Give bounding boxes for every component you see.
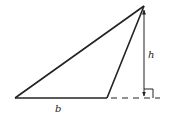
triangle-diagram: h b: [0, 0, 169, 118]
base-label: b: [55, 103, 61, 114]
right-angle-marker: [144, 89, 153, 98]
height-label: h: [148, 49, 154, 60]
